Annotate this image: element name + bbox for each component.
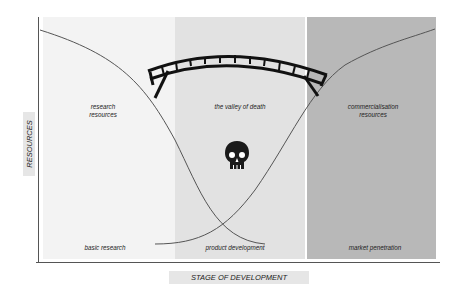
label-line: commercialisation	[328, 103, 418, 111]
label-line: research	[70, 103, 136, 111]
label-commercialisation-resources: commercialisation resources	[328, 103, 418, 118]
commercialisation-resources-curve	[155, 29, 435, 244]
bridge-icon	[148, 55, 327, 98]
label-research-resources: research resources	[70, 103, 136, 118]
y-axis-title-text: RESOURCES	[25, 120, 34, 168]
label-line: resources	[328, 111, 418, 119]
research-resources-curve	[40, 30, 265, 244]
label-market-penetration: market penetration	[335, 244, 415, 252]
x-axis-title: STAGE OF DEVELOPMENT	[169, 271, 309, 284]
label-valley-of-death: the valley of death	[200, 103, 280, 111]
skull-icon	[225, 141, 249, 169]
label-basic-research: basic research	[70, 244, 140, 252]
y-axis-title: RESOURCES	[23, 112, 35, 176]
label-line: resources	[70, 111, 136, 119]
label-product-development: product development	[195, 244, 275, 252]
